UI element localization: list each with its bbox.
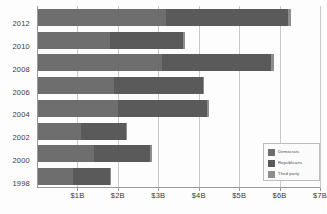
bar-segment [288,9,291,26]
bar-segment [150,145,152,162]
x-axis-tick-label: $2B [111,191,125,200]
bar-segment [37,77,114,94]
bar-segment [81,123,125,140]
y-axis-tick-label: 2012 [13,19,31,28]
bar-row [37,100,209,117]
x-axis-tick-label: $7B [313,191,327,200]
bar-row [37,77,204,94]
legend-swatch-democrats [268,149,275,156]
legend-label-third-party: Third party [278,172,299,176]
x-axis-tick-label: $1B [70,191,84,200]
y-axis-line [37,6,38,188]
x-axis-labels: $1B$2B$3B$4B$5B$6B$7B [37,191,320,207]
x-axis-line [37,187,320,188]
chart-legend: Democrats Republicans Third party [263,143,320,181]
bar-segment [94,145,151,162]
x-axis-tick-label: $6B [273,191,287,200]
bar-segment [126,123,127,140]
y-axis-tick-label: 2008 [13,64,31,73]
y-axis-tick-label: 2002 [13,133,31,142]
bar-segment [118,100,207,117]
bar-segment [110,168,111,185]
bar-row [37,145,152,162]
bar-segment [37,145,94,162]
gridline [320,6,321,188]
x-axis-tick-label: $4B [192,191,206,200]
bar-segment [37,54,162,71]
x-axis-tick-label: $3B [151,191,165,200]
legend-swatch-third-party [268,171,275,178]
bar-segment [207,100,209,117]
bar-segment [162,54,271,71]
bar-segment [73,168,109,185]
bar-row [37,9,291,26]
y-axis-tick-label: 2010 [13,42,31,51]
bar-segment [110,32,183,49]
bar-row [37,168,111,185]
legend-label-republicans: Republicans [278,161,302,165]
bar-row [37,32,185,49]
legend-swatch-republicans [268,160,275,167]
bar-segment [37,9,166,26]
y-axis-tick-label: 1998 [13,178,31,187]
bar-row [37,54,274,71]
bar-segment [166,9,287,26]
y-axis-tick-label: 2006 [13,87,31,96]
bar-segment [114,77,203,94]
bar-segment [271,54,274,71]
legend-item-democrats: Democrats [267,147,316,157]
y-axis-labels: 20122010200820062004200220001998 [0,6,34,188]
bar-segment [37,168,73,185]
bar-segment [203,77,205,94]
bar-segment [183,32,185,49]
y-axis-tick-label: 2004 [13,110,31,119]
legend-label-democrats: Democrats [278,150,299,154]
legend-item-republicans: Republicans [267,158,316,168]
x-axis-tick-label: $5B [232,191,246,200]
bar-segment [37,100,118,117]
bar-row [37,123,127,140]
bar-segment [37,32,110,49]
bar-segment [37,123,81,140]
y-axis-tick-label: 2000 [13,155,31,164]
legend-item-third-party: Third party [267,169,316,179]
